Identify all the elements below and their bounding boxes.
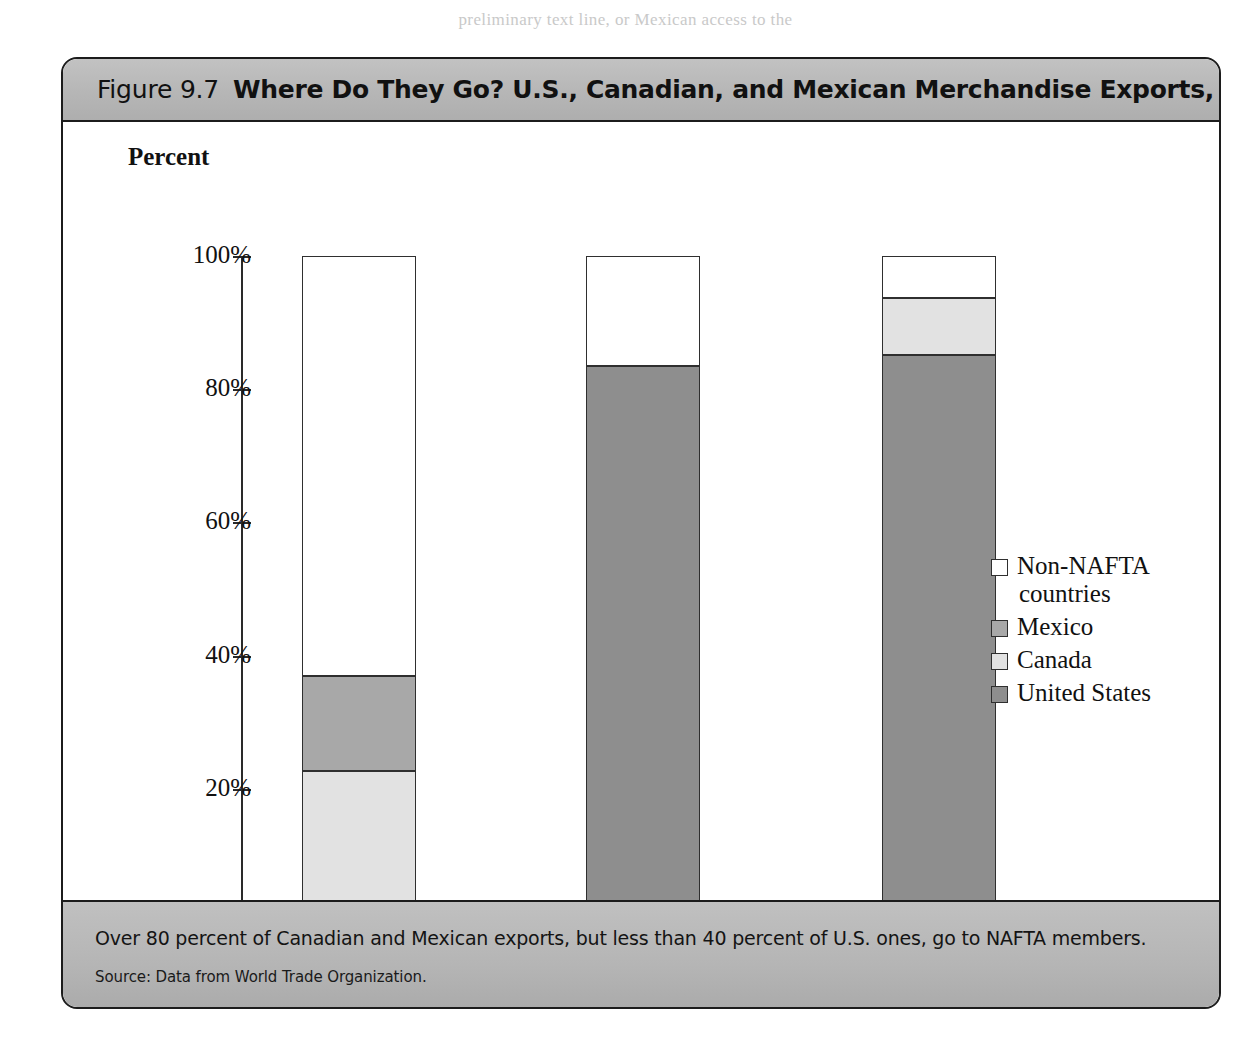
legend-swatch-icon	[991, 686, 1008, 703]
bar-segment-non-nafta-countries	[302, 256, 416, 676]
bar-segment-canada	[882, 298, 996, 355]
figure-header-inner: Figure 9.7Where Do They Go? U.S., Canadi…	[63, 75, 1221, 104]
y-tick-label: 20%	[161, 774, 251, 802]
stacked-bar	[302, 256, 416, 922]
y-tick-label: 60%	[161, 507, 251, 535]
bar-segment-non-nafta-countries	[882, 256, 996, 298]
legend-label: Canada	[1017, 646, 1092, 674]
legend-item[interactable]: United States	[991, 679, 1221, 707]
stacked-bar	[882, 256, 996, 922]
legend-label-line2: countries	[1017, 580, 1150, 608]
y-axis-line	[241, 256, 243, 923]
bar-segment-united-states	[586, 366, 700, 922]
y-axis-label: Percent	[128, 143, 209, 171]
bar-segment-united-states	[882, 355, 996, 922]
figure-footer-band: Over 80 percent of Canadian and Mexican …	[63, 900, 1219, 1007]
legend-swatch-icon	[991, 559, 1008, 576]
chart-legend: Non-NAFTAcountriesMexicoCanadaUnited Sta…	[991, 552, 1221, 712]
bar-segment-mexico	[302, 676, 416, 771]
y-tick-label: 80%	[161, 374, 251, 402]
figure-source: Source: Data from World Trade Organizati…	[95, 968, 427, 986]
legend-swatch-icon	[991, 620, 1008, 637]
legend-label: Non-NAFTAcountries	[1017, 552, 1150, 608]
y-tick-label: 100%	[161, 241, 251, 269]
legend-item[interactable]: Non-NAFTAcountries	[991, 552, 1221, 608]
stacked-bar	[586, 256, 700, 922]
page-body-text: preliminary text line, or Mexican access…	[0, 0, 1251, 40]
figure-container: Figure 9.7Where Do They Go? U.S., Canadi…	[61, 57, 1221, 1009]
figure-title: Where Do They Go? U.S., Canadian, and Me…	[233, 75, 1221, 104]
legend-swatch-icon	[991, 653, 1008, 670]
legend-label: United States	[1017, 679, 1151, 707]
figure-header-band: Figure 9.7Where Do They Go? U.S., Canadi…	[63, 59, 1219, 122]
chart-plot-area: Percent 0%20%40%60%80%100% Share of U.S.…	[63, 122, 1219, 940]
y-tick-label: 40%	[161, 641, 251, 669]
figure-number: Figure 9.7	[97, 75, 219, 104]
legend-item[interactable]: Canada	[991, 646, 1221, 674]
legend-item[interactable]: Mexico	[991, 613, 1221, 641]
legend-label: Mexico	[1017, 613, 1093, 641]
bar-segment-non-nafta-countries	[586, 256, 700, 366]
figure-caption: Over 80 percent of Canadian and Mexican …	[95, 927, 1195, 949]
